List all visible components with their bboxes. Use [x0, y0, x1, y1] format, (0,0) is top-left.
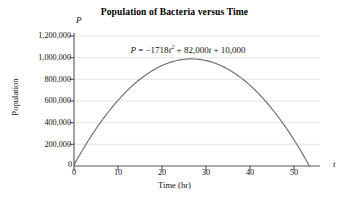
x-tick-label: 50: [277, 168, 311, 177]
chart-figure: Population of Bacteria versus Time: [0, 0, 349, 199]
x-tick-label: 10: [101, 168, 135, 177]
y-tick-label: 200,000: [9, 140, 71, 149]
x-axis-variable: t: [333, 159, 336, 169]
equation-linear-term: t: [209, 45, 212, 55]
population-curve: [74, 59, 309, 166]
y-axis-label: Population: [10, 55, 20, 139]
equation-linear-sign: +: [177, 45, 182, 55]
x-tick-label: 20: [145, 168, 179, 177]
equation-constant: 10,000: [221, 45, 246, 55]
x-axis-label: Time (hr): [0, 180, 349, 190]
equation-annotation: P = −1718t2 + 82,000t + 10,000: [88, 43, 288, 55]
y-axis-variable: P: [76, 15, 82, 25]
equation-quadratic-coefficient: −1718: [146, 45, 169, 55]
x-tick-label: 40: [233, 168, 267, 177]
equation-equals: =: [138, 45, 143, 55]
equation-quadratic-power: 2: [171, 43, 174, 50]
equation-constant-sign: +: [213, 45, 218, 55]
y-tick-label: 1,200,000: [9, 31, 71, 40]
equation-linear-coefficient: 82,000: [184, 45, 209, 55]
x-tick-label: 0: [57, 168, 91, 177]
equation-lhs: P: [130, 45, 136, 55]
x-tick-label: 30: [189, 168, 223, 177]
